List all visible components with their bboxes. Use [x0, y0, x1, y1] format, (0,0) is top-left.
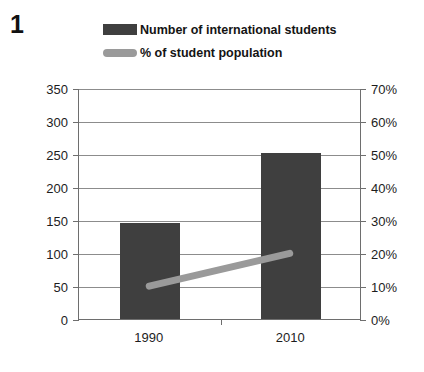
y-axis-right-tick	[360, 287, 366, 288]
chart-legend: Number of international students % of st…	[103, 18, 403, 64]
y-axis-right-tick-label: 40%	[371, 181, 397, 196]
x-axis-tick-label-2010: 2010	[276, 330, 305, 345]
x-axis-center-tick	[221, 319, 222, 325]
y-axis-left-tick	[73, 320, 79, 321]
legend-item-bar-series: Number of international students	[103, 18, 403, 41]
y-axis-left-tick-label: 150	[46, 214, 68, 229]
y-axis-right-tick	[360, 89, 366, 90]
y-axis-right-tick	[360, 122, 366, 123]
y-axis-right-tick	[360, 254, 366, 255]
figure-number: 1	[10, 12, 23, 37]
line-path	[149, 253, 290, 286]
y-axis-right-tick	[360, 320, 366, 321]
y-axis-right-labels: 0%10%20%30%40%50%60%70%	[371, 89, 424, 320]
y-axis-left-tick-label: 50	[54, 280, 68, 295]
y-axis-left-tick-label: 100	[46, 247, 68, 262]
y-axis-right-tick	[360, 221, 366, 222]
legend-item-line-series: % of student population	[103, 41, 403, 64]
y-axis-left-labels: 050100150200250300350	[0, 89, 68, 320]
legend-swatch-bar-icon	[103, 24, 137, 35]
y-axis-right-tick-label: 60%	[371, 115, 397, 130]
y-axis-left-tick-label: 350	[46, 82, 68, 97]
x-axis-tick-label-1990: 1990	[134, 330, 163, 345]
y-axis-left-tick-label: 300	[46, 115, 68, 130]
y-axis-right-tick	[360, 155, 366, 156]
y-axis-right-tick-label: 0%	[371, 313, 390, 328]
legend-label-bar-series: Number of international students	[140, 23, 337, 37]
y-axis-right-tick-label: 70%	[371, 82, 397, 97]
y-axis-right-tick-label: 30%	[371, 214, 397, 229]
y-axis-right-tick	[360, 188, 366, 189]
y-axis-right-tick-label: 50%	[371, 148, 397, 163]
y-axis-left-tick-label: 250	[46, 148, 68, 163]
y-axis-left-tick-label: 200	[46, 181, 68, 196]
legend-label-line-series: % of student population	[140, 46, 282, 60]
y-axis-right-tick-label: 10%	[371, 280, 397, 295]
x-axis-labels: 19902010	[78, 330, 361, 352]
line-series	[79, 89, 360, 319]
y-axis-right-tick-label: 20%	[371, 247, 397, 262]
plot-area	[78, 89, 361, 320]
legend-swatch-line-icon	[103, 49, 137, 57]
y-axis-left-tick-label: 0	[61, 313, 68, 328]
figure-container: 1 Number of international students % of …	[0, 0, 424, 372]
